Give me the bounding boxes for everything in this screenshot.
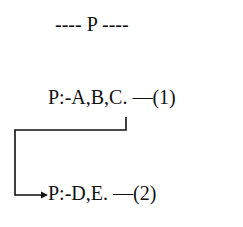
arrow-right-icon — [41, 192, 48, 199]
connector-arrow — [0, 0, 243, 227]
